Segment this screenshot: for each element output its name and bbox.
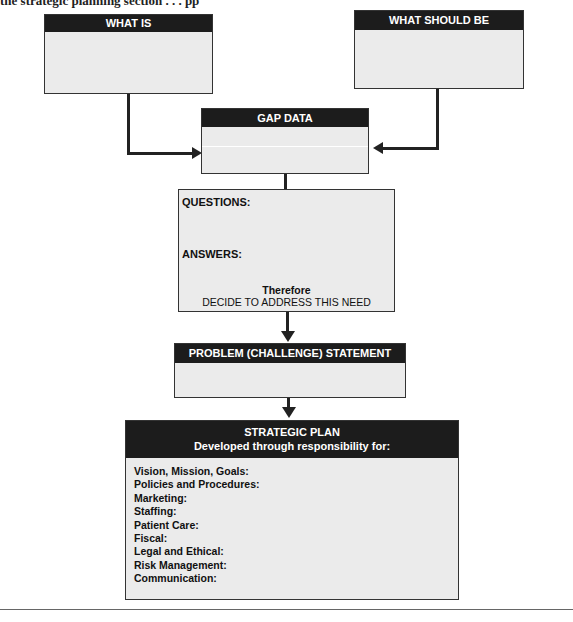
strategic-plan-list: Vision, Mission, Goals: Policies and Pro… [126, 458, 458, 586]
decision-text: DECIDE TO ADDRESS THIS NEED [179, 296, 394, 308]
connector-should-be-left [382, 147, 439, 150]
connector-what-is-right [127, 152, 193, 155]
questions-label: QUESTIONS: [182, 196, 394, 208]
plan-item-risk-management: Risk Management: [134, 559, 458, 572]
page-rule [0, 609, 573, 610]
what-is-box: WHAT IS [44, 14, 213, 94]
connector-what-is-down [127, 94, 130, 154]
arrow-down-icon [282, 407, 296, 418]
connector-should-be-down [436, 89, 439, 149]
plan-item-legal-ethical: Legal and Ethical: [134, 545, 458, 558]
strategic-plan-header: STRATEGIC PLAN Developed through respons… [126, 421, 458, 458]
connector-gap-down [284, 174, 287, 190]
what-is-header: WHAT IS [45, 15, 212, 32]
plan-item-policies: Policies and Procedures: [134, 478, 458, 491]
plan-item-vision: Vision, Mission, Goals: [134, 465, 458, 478]
arrow-down-icon [281, 331, 295, 342]
plan-item-staffing: Staffing: [134, 505, 458, 518]
gap-data-header: GAP DATA [202, 109, 368, 127]
problem-statement-header: PROBLEM (CHALLENGE) STATEMENT [175, 344, 405, 363]
plan-item-marketing: Marketing: [134, 492, 458, 505]
page-caption: the strategic planning section . . . pp [0, 0, 199, 9]
strategic-plan-box: STRATEGIC PLAN Developed through respons… [125, 420, 459, 600]
plan-item-fiscal: Fiscal: [134, 532, 458, 545]
arrow-left-icon [373, 142, 383, 154]
questions-box: QUESTIONS: ANSWERS: Therefore DECIDE TO … [178, 189, 395, 312]
strategic-plan-title: STRATEGIC PLAN [126, 426, 458, 439]
answers-label: ANSWERS: [182, 248, 394, 260]
gap-data-box: GAP DATA [201, 108, 369, 174]
plan-item-communication: Communication: [134, 572, 458, 585]
gap-data-divider [202, 146, 368, 147]
plan-item-patient-care: Patient Care: [134, 519, 458, 532]
therefore-text: Therefore [179, 284, 394, 296]
strategic-plan-subtitle: Developed through responsibility for: [126, 439, 458, 453]
problem-statement-box: PROBLEM (CHALLENGE) STATEMENT [174, 343, 406, 398]
what-should-be-header: WHAT SHOULD BE [355, 11, 523, 30]
what-should-be-box: WHAT SHOULD BE [354, 10, 524, 89]
